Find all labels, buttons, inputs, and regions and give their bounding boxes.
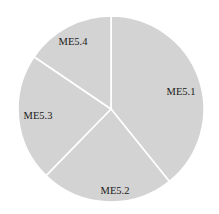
pie-slices (18, 16, 204, 202)
slice-label-me5-3: ME5.3 (24, 110, 53, 121)
slice-label-me5-1: ME5.1 (167, 86, 196, 97)
slice-label-me5-4: ME5.4 (59, 36, 89, 47)
pie-chart: ME5.1 ME5.2 ME5.3 ME5.4 (0, 0, 219, 214)
slice-label-me5-2: ME5.2 (101, 185, 130, 196)
